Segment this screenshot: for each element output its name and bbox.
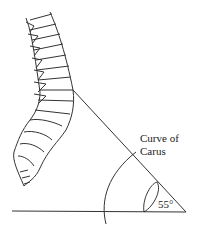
curve-of-carus-arc	[104, 152, 136, 224]
angle-label: 55°	[158, 198, 173, 210]
curve-of-carus-label-2: Carus	[140, 145, 166, 157]
pelvic-inlet-ellipse	[144, 182, 159, 212]
curve-of-carus-label-1: Curve of	[140, 132, 179, 144]
horizontal-line	[12, 211, 186, 212]
spine-illustration	[14, 12, 74, 186]
pelvic-axis-line	[73, 90, 186, 212]
curve-of-carus-diagram: Curve of Carus 55°	[0, 0, 197, 232]
